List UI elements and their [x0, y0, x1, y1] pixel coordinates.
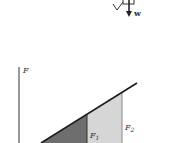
top-fragment: w	[113, 0, 142, 18]
force-graph: F F1 F2	[19, 66, 137, 143]
diagram-canvas: w F F1 F2	[0, 0, 176, 143]
y-axis-label: F	[22, 66, 29, 75]
weight-arrow-head-icon	[126, 11, 132, 17]
incline-edge	[113, 2, 123, 10]
weight-label: w	[133, 8, 142, 18]
f2-label: F2	[124, 123, 135, 133]
